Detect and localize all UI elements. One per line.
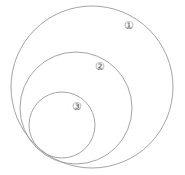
nested-circles-diagram: ① ② ③ — [0, 0, 185, 175]
circle-3-label: ③ — [72, 100, 82, 113]
circle-3 — [29, 92, 95, 158]
circle-2-label: ② — [95, 60, 105, 73]
circle-1-label: ① — [124, 19, 134, 32]
